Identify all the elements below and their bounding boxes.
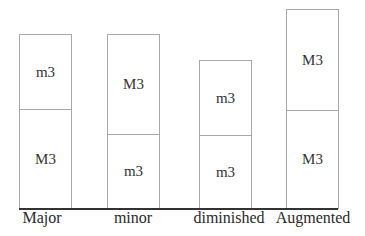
interval-label: m3: [216, 90, 235, 107]
augmented-lower-interval: M3: [286, 110, 339, 209]
triad-label-diminished: diminished: [193, 209, 264, 227]
diminished-lower-interval: m3: [199, 135, 252, 209]
major-lower-interval: M3: [19, 109, 72, 209]
interval-label: M3: [35, 151, 56, 168]
augmented-upper-interval: M3: [286, 9, 339, 111]
interval-label: M3: [302, 52, 323, 69]
interval-label: m3: [36, 64, 55, 81]
minor-lower-interval: m3: [107, 134, 160, 209]
major-upper-interval: m3: [19, 34, 72, 110]
interval-label: M3: [123, 76, 144, 93]
interval-label: m3: [216, 164, 235, 181]
diminished-upper-interval: m3: [199, 60, 252, 136]
interval-label: M3: [302, 151, 323, 168]
interval-label: m3: [124, 163, 143, 180]
triad-label-augmented: Augmented: [276, 209, 351, 227]
minor-upper-interval: M3: [107, 34, 160, 135]
triad-label-minor: minor: [114, 209, 152, 227]
triad-label-major: Major: [22, 209, 61, 227]
